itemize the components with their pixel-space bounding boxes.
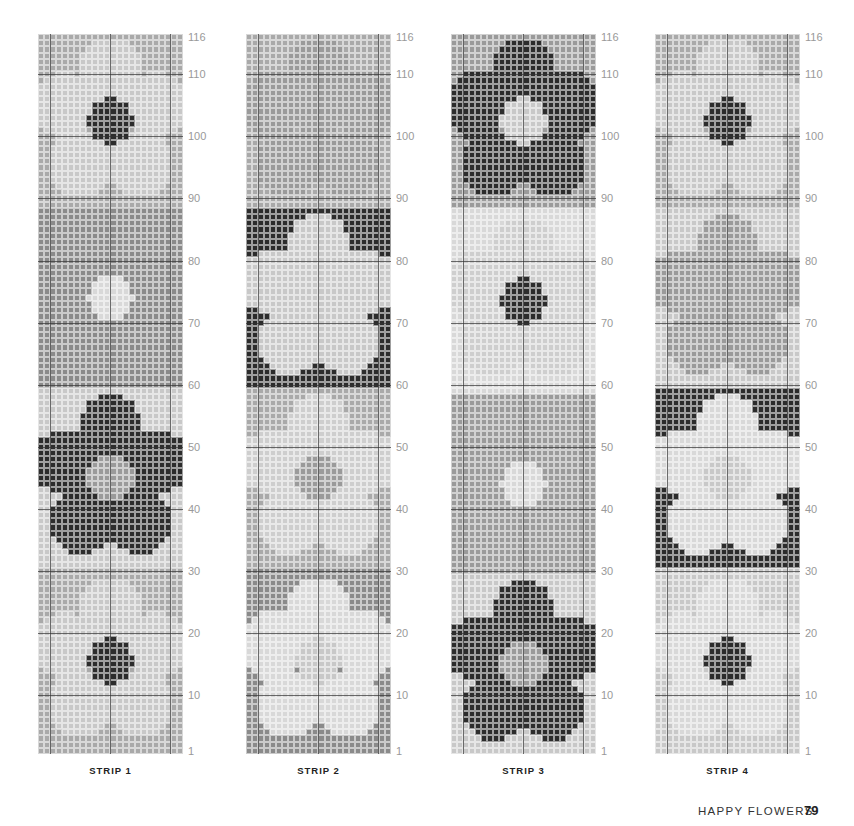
row-number: 60 [188,379,200,391]
row-number: 20 [396,627,408,639]
strip-label: STRIP 4 [655,765,800,776]
running-footer-title: HAPPY FLOWERS [698,805,814,817]
row-number: 100 [601,130,619,142]
row-number: 10 [805,689,817,701]
row-number: 10 [601,689,613,701]
row-number: 40 [396,503,408,515]
row-number: 70 [188,317,200,329]
row-number: 20 [805,627,817,639]
strip-label: STRIP 2 [246,765,391,776]
row-number: 110 [805,68,823,80]
gridline [170,34,171,754]
strip-2: 1161101009080706050403020101 [246,34,391,754]
row-number: 60 [805,379,817,391]
row-number: 50 [396,441,408,453]
row-number: 30 [805,565,817,577]
row-number: 50 [601,441,613,453]
row-number: 60 [601,379,613,391]
row-number: 100 [188,130,206,142]
gridline [667,34,668,754]
row-number: 60 [396,379,408,391]
strip-3: 1161101009080706050403020101 [451,34,596,754]
row-number: 40 [805,503,817,515]
gridline [378,34,379,754]
gridline [787,34,788,754]
row-number: 30 [601,565,613,577]
row-number: 30 [396,565,408,577]
row-number-axis: 1161101009080706050403020101 [601,34,641,754]
row-number: 1 [805,745,811,757]
row-number: 90 [396,192,408,204]
strip-1: 1161101009080706050403020101 [38,34,183,754]
row-number: 40 [188,503,200,515]
row-number: 100 [805,130,823,142]
row-number: 116 [601,31,619,43]
row-number: 10 [396,689,408,701]
row-number: 50 [805,441,817,453]
row-number: 80 [188,255,200,267]
row-number: 1 [188,745,194,757]
row-number: 1 [601,745,607,757]
row-number: 70 [805,317,817,329]
row-number: 90 [601,192,613,204]
gridline [110,34,111,754]
row-number: 90 [805,192,817,204]
row-number-axis: 1161101009080706050403020101 [805,34,845,754]
row-number: 110 [396,68,414,80]
row-number: 80 [601,255,613,267]
gridline [258,34,259,754]
row-number-axis: 1161101009080706050403020101 [188,34,228,754]
row-number: 50 [188,441,200,453]
row-number: 10 [188,689,200,701]
row-number: 116 [188,31,206,43]
row-number: 90 [188,192,200,204]
gridline [50,34,51,754]
row-number: 40 [601,503,613,515]
gridline [583,34,584,754]
row-number: 20 [188,627,200,639]
strip-label: STRIP 3 [451,765,596,776]
strip-label: STRIP 1 [38,765,183,776]
strip-4: 1161101009080706050403020101 [655,34,800,754]
row-number: 1 [396,745,402,757]
row-number: 70 [601,317,613,329]
row-number: 100 [396,130,414,142]
page-number: 79 [804,803,818,818]
gridline [463,34,464,754]
row-number: 20 [601,627,613,639]
row-number: 116 [396,31,414,43]
row-number: 30 [188,565,200,577]
gridline [523,34,524,754]
row-number: 80 [805,255,817,267]
gridline [727,34,728,754]
row-number: 70 [396,317,408,329]
row-number: 80 [396,255,408,267]
row-number: 110 [601,68,619,80]
row-number: 116 [805,31,823,43]
row-number: 110 [188,68,206,80]
gridline [318,34,319,754]
row-number-axis: 1161101009080706050403020101 [396,34,436,754]
